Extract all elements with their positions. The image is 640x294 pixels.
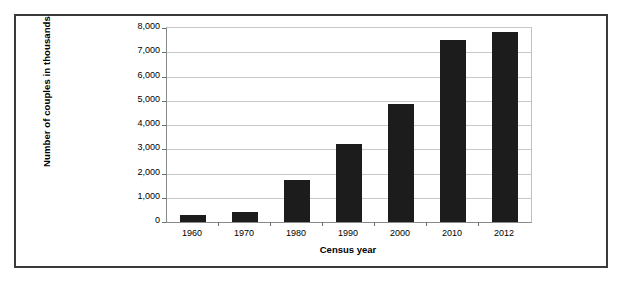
gridline (167, 77, 531, 78)
y-axis-tick-mark (162, 101, 166, 102)
y-axis-tick-label: 5,000 (114, 95, 160, 104)
bar (388, 104, 414, 222)
y-axis-tick-label: 6,000 (114, 71, 160, 80)
x-axis-tick-mark (270, 222, 271, 226)
y-axis-tick-label: 2,000 (114, 168, 160, 177)
y-axis-tick-labels: 8,0007,0006,0005,0004,0003,0002,0001,000… (112, 27, 160, 221)
gridline (167, 52, 531, 53)
y-axis-tick-label: 1,000 (114, 192, 160, 201)
gridline (167, 101, 531, 102)
x-axis-tick-label: 2000 (374, 228, 426, 239)
x-axis-tick-mark (374, 222, 375, 226)
x-axis-tick-label: 1970 (218, 228, 270, 239)
x-axis-tick-label: 2012 (478, 228, 530, 239)
y-axis-tick-mark (162, 52, 166, 53)
x-axis-title: Census year (166, 244, 530, 255)
x-axis-tick-labels: 1960197019801990200020102012 (166, 228, 530, 242)
x-axis-tick-label: 2010 (426, 228, 478, 239)
x-axis-tick-mark (478, 222, 479, 226)
y-axis-tick-label: 0 (114, 216, 160, 225)
y-axis-tick-label: 4,000 (114, 119, 160, 128)
x-axis-tick-mark (218, 222, 219, 226)
x-axis-tick-mark (322, 222, 323, 226)
bar (284, 180, 310, 222)
y-axis-tick-mark (162, 149, 166, 150)
y-axis-title: Number of couples in thousands (41, 2, 52, 182)
y-axis-tick-mark (162, 28, 166, 29)
x-axis-tick-label: 1990 (322, 228, 374, 239)
y-axis-tick-mark (162, 174, 166, 175)
x-axis-tick-label: 1960 (166, 228, 218, 239)
bar (336, 144, 362, 222)
y-axis-tick-label: 7,000 (114, 46, 160, 55)
y-axis-tick-label: 8,000 (114, 22, 160, 31)
y-axis-tick-mark (162, 77, 166, 78)
x-axis-tick-marks (166, 222, 530, 227)
x-axis-tick-label: 1980 (270, 228, 322, 239)
bar-chart: Number of couples in thousands 8,0007,00… (16, 16, 610, 270)
bar (492, 32, 518, 222)
y-axis-tick-mark (162, 198, 166, 199)
y-axis-tick-label: 3,000 (114, 143, 160, 152)
gridline (167, 125, 531, 126)
bar (440, 40, 466, 222)
y-axis-tick-mark (162, 125, 166, 126)
bar (232, 212, 258, 222)
plot-area (166, 27, 532, 223)
chart-figure-frame: Number of couples in thousands 8,0007,00… (14, 14, 608, 268)
x-axis-tick-mark (426, 222, 427, 226)
bar (180, 215, 206, 222)
